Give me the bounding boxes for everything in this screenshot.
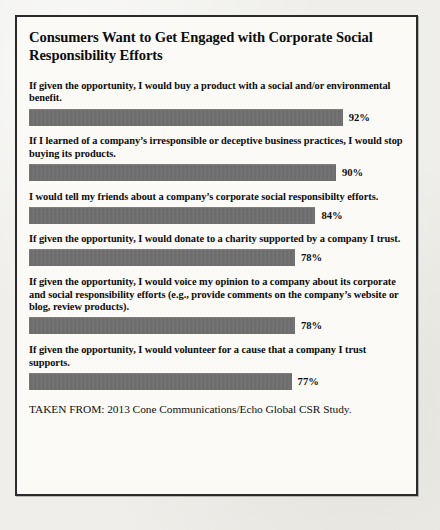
bar-value-label: 90% [342, 167, 363, 178]
bar-value-label: 84% [321, 210, 342, 221]
bar-fill [29, 207, 315, 224]
bar-track: 78% [29, 249, 404, 267]
bar-category-label: If I learned of a company’s irresponsibl… [29, 135, 404, 160]
bar-value-label: 77% [298, 376, 319, 387]
bar-fill [29, 164, 336, 181]
bar-value-label: 92% [349, 112, 370, 123]
bar-track: 90% [29, 164, 404, 182]
bar-track: 77% [29, 372, 404, 390]
bar-value-label: 78% [301, 320, 322, 331]
bar-fill [29, 109, 343, 126]
bar-category-label: If given the opportunity, I would volunt… [29, 344, 404, 369]
page-title: Consumers Want to Get Engaged with Corpo… [29, 28, 404, 65]
bar-row: If given the opportunity, I would donate… [29, 233, 404, 267]
bar-category-label: If given the opportunity, I would buy a … [29, 80, 404, 105]
bar-row: If given the opportunity, I would voice … [29, 276, 404, 335]
bar-row: If given the opportunity, I would buy a … [29, 80, 404, 126]
bar-row: If given the opportunity, I would volunt… [29, 344, 404, 390]
bar-category-label: If given the opportunity, I would donate… [29, 233, 404, 246]
bar-category-label: I would tell my friends about a company’… [29, 191, 404, 204]
bar-fill [29, 317, 295, 334]
bar-row: If I learned of a company’s irresponsibl… [29, 135, 404, 181]
bar-chart: If given the opportunity, I would buy a … [29, 80, 404, 391]
bar-track: 92% [29, 108, 404, 126]
bar-track: 84% [29, 206, 404, 224]
bar-value-label: 78% [301, 252, 322, 263]
bar-fill [29, 373, 292, 390]
bar-category-label: If given the opportunity, I would voice … [29, 276, 404, 314]
figure-panel: Consumers Want to Get Engaged with Corpo… [15, 15, 418, 496]
bar-row: I would tell my friends about a company’… [29, 191, 404, 225]
figure-content: Consumers Want to Get Engaged with Corpo… [17, 17, 416, 494]
bar-fill [29, 249, 295, 266]
bar-track: 78% [29, 317, 404, 335]
source-note: TAKEN FROM: 2013 Cone Communications/Ech… [29, 403, 404, 415]
